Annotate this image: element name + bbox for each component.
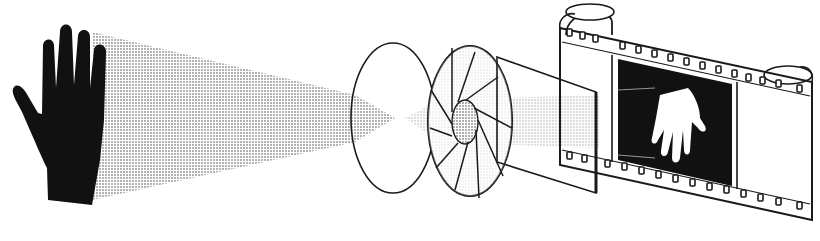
diagram-canvas — [0, 0, 820, 241]
aperture-iris — [428, 46, 512, 198]
light-cone — [92, 32, 600, 200]
camera-diagram — [0, 0, 820, 241]
